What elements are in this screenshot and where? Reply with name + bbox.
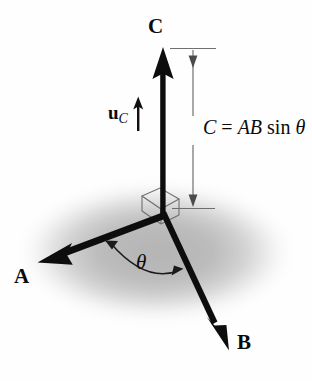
angle-label: θ: [136, 252, 146, 273]
unit-vector-symbol: u: [108, 102, 119, 123]
unit-vector-arrow: [133, 97, 143, 132]
diagram-canvas: [0, 0, 312, 381]
vector-c-label: C: [148, 16, 163, 37]
equation-lhs: C: [203, 116, 216, 138]
equation-function: sin: [267, 116, 290, 138]
equation-equals: =: [216, 116, 237, 138]
equation-product: AB: [238, 116, 262, 138]
magnitude-equation: C = AB sin θ: [203, 117, 305, 137]
unit-vector-label: uC: [108, 103, 128, 122]
equation-argument: θ: [295, 116, 305, 138]
vector-a-label: A: [14, 266, 29, 287]
unit-vector-subscript: C: [119, 111, 128, 126]
vector-cross-product-figure: C A B uC C = AB sin θ θ: [0, 0, 312, 381]
vector-b-label: B: [237, 332, 251, 353]
